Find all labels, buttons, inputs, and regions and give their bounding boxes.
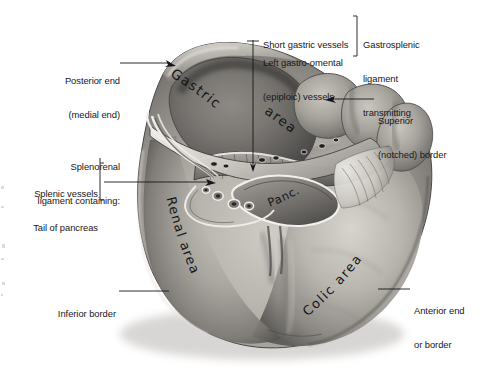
callout-superior-border-line2: (notched) border: [378, 149, 482, 160]
callout-anterior-end-line1: Anterior end: [414, 305, 482, 316]
callout-posterior-end-line2: (medial end): [28, 109, 120, 120]
callout-gastrosplenic-line1: Gastrosplenic: [363, 39, 475, 50]
anatomical-figure-spleen: Gastric area Renal area Colic area: [0, 0, 486, 384]
callout-tail-of-pancreas-line1: Tail of pancreas: [12, 222, 98, 233]
callout-gastrosplenic-line2: ligament: [363, 73, 475, 84]
callout-left-gastro-omental-line1: Left gastro-omental: [263, 57, 359, 68]
callout-posterior-end-line1: Posterior end: [28, 75, 120, 86]
callout-anterior-end: Anterior end or border: [414, 282, 482, 373]
callout-superior-border-line1: Superior: [378, 115, 482, 126]
callout-inferior-border-line1: Inferior border: [40, 308, 116, 319]
callout-left-gastro-omental-line2: (epiploic) vessels: [263, 91, 359, 102]
callout-anterior-end-line2: or border: [414, 339, 482, 350]
callout-left-gastro-omental: Left gastro-omental (epiploic) vessels: [263, 34, 359, 125]
callout-superior-border: Superior (notched) border: [378, 92, 482, 183]
callout-splenic-vessels: Splenic vessels Tail of pancreas: [12, 165, 98, 256]
callout-inferior-border: Inferior border: [40, 285, 116, 342]
callout-splenic-vessels-line1: Splenic vessels: [12, 188, 98, 199]
scan-edge-artifacts: [1, 186, 5, 296]
callout-posterior-end: Posterior end (medial end): [28, 52, 120, 143]
